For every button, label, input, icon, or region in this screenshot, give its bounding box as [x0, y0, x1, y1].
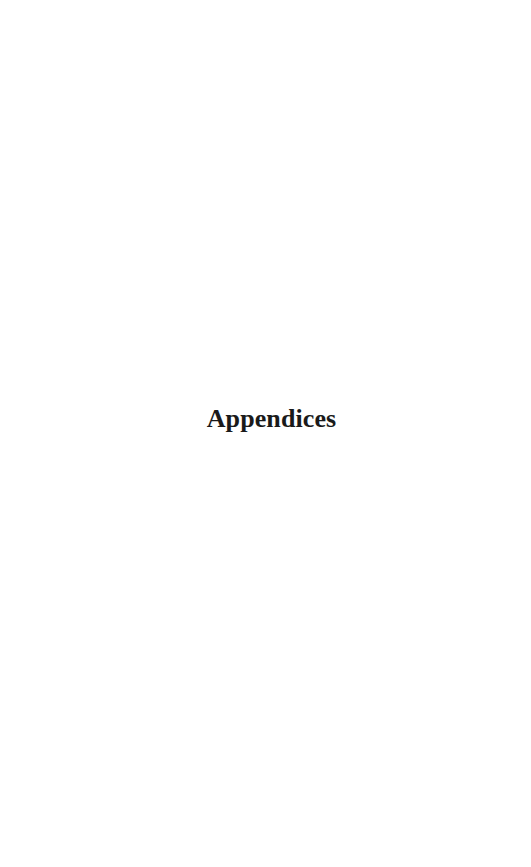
section-divider-heading-container: Appendices — [0, 404, 531, 434]
blank-area-above-heading — [0, 0, 531, 411]
scanned-page: Appendices — [0, 0, 531, 867]
page-title: Appendices — [207, 404, 337, 434]
blank-area-below-heading — [0, 435, 531, 867]
